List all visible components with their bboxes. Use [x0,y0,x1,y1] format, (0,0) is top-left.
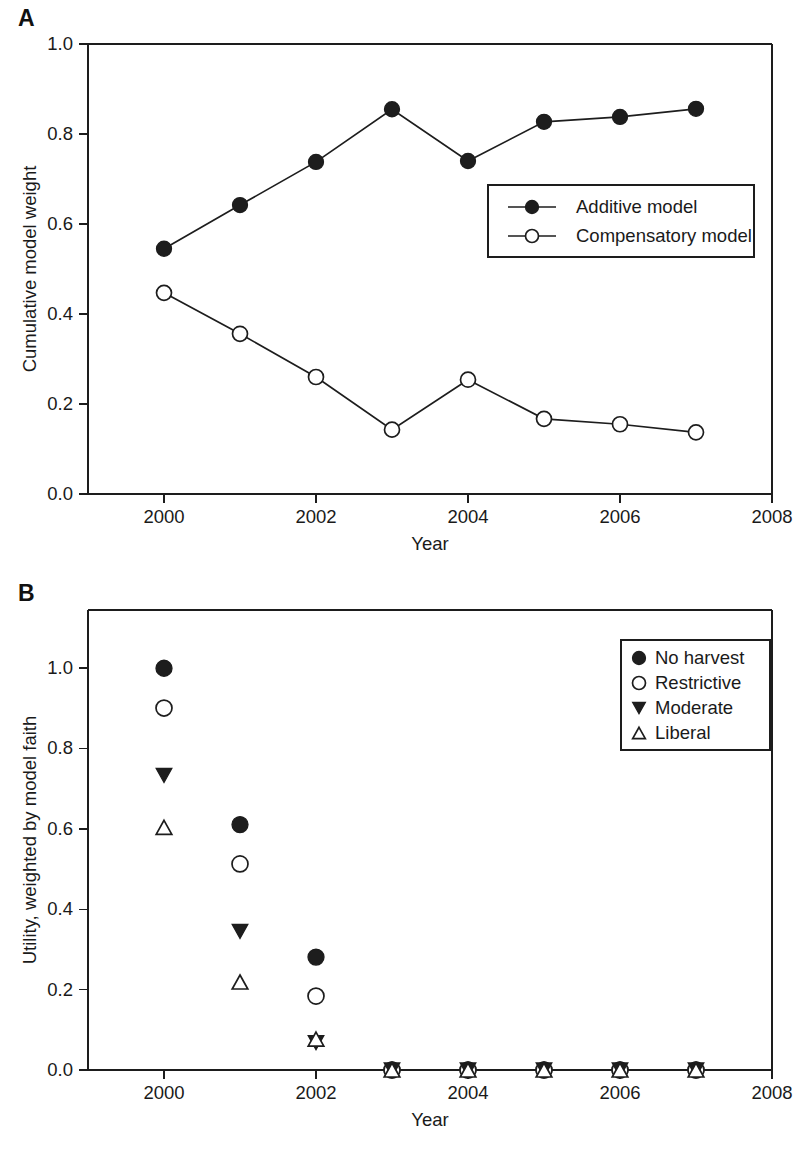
legend-label: No harvest [655,647,744,668]
marker-open-circle [537,411,552,426]
legend: Additive modelCompensatory model [488,185,754,257]
marker-filled-circle [461,154,476,169]
marker-filled-circle [385,102,400,117]
x-tick-label: 2002 [295,506,336,527]
y-axis-ticks: 0.00.20.40.60.81.0 [47,33,88,504]
x-axis-ticks: 20002002200420062008 [143,494,792,527]
y-tick-label: 0.2 [47,979,73,1000]
marker-open-circle [308,988,324,1004]
marker-filled-circle [156,660,172,676]
legend-label: Restrictive [655,672,741,693]
panel-b: B 0.00.20.40.60.81.020002002200420062008… [0,570,800,1149]
legend-label: Moderate [655,697,733,718]
legend-label: Additive model [576,196,697,217]
marker-filled-circle-legend [633,652,646,665]
series-moderate [156,769,704,1077]
marker-filled-circle [689,101,704,116]
marker-open-triangle-up [232,975,248,989]
x-tick-label: 2004 [447,506,488,527]
y-tick-label: 0.6 [47,818,73,839]
y-tick-label: 0.6 [47,213,73,234]
marker-filled-triangle-down [232,924,248,938]
y-tick-label: 0.8 [47,123,73,144]
marker-open-triangle-up [156,820,172,834]
panel-b-letter: B [18,580,35,607]
series-restrictive [156,700,704,1078]
figure-container: A 0.00.20.40.60.81.020002002200420062008… [0,0,800,1149]
marker-open-circle-legend [526,230,539,243]
y-tick-label: 0.2 [47,393,73,414]
panel-a-letter: A [18,5,35,32]
marker-open-circle [232,856,248,872]
y-tick-label: 1.0 [47,33,73,54]
marker-filled-circle-legend [526,201,539,214]
x-tick-label: 2006 [599,506,640,527]
panel-a-plot: 0.00.20.40.60.81.020002002200420062008Ye… [0,0,800,575]
y-tick-label: 0.8 [47,737,73,758]
marker-open-circle [233,326,248,341]
y-tick-label: 0.0 [47,483,73,504]
marker-open-circle [309,370,324,385]
x-tick-label: 2000 [143,1082,184,1103]
marker-open-circle [461,372,476,387]
x-axis-title: Year [411,533,448,554]
marker-filled-circle [157,241,172,256]
y-tick-label: 1.0 [47,657,73,678]
legend-label: Compensatory model [576,225,752,246]
y-axis-title: Cumulative model weight [19,166,40,373]
x-tick-label: 2000 [143,506,184,527]
x-tick-label: 2008 [751,1082,792,1103]
series-line [164,293,696,433]
marker-open-circle [385,422,400,437]
legend-label: Liberal [655,722,711,743]
marker-filled-circle [309,154,324,169]
y-axis-ticks: 0.00.20.40.60.81.0 [47,657,88,1080]
marker-open-circle [613,417,628,432]
x-axis-title: Year [411,1109,448,1130]
marker-open-circle-legend [633,677,646,690]
panel-b-plot: 0.00.20.40.60.81.020002002200420062008Ye… [0,570,800,1149]
marker-filled-circle [232,817,248,833]
y-tick-label: 0.4 [47,303,73,324]
panel-a: A 0.00.20.40.60.81.020002002200420062008… [0,0,800,575]
marker-filled-circle [613,109,628,124]
marker-filled-circle [537,114,552,129]
marker-open-circle [689,425,704,440]
x-tick-label: 2002 [295,1082,336,1103]
y-tick-label: 0.4 [47,898,73,919]
x-tick-label: 2004 [447,1082,488,1103]
marker-filled-circle [308,949,324,965]
marker-filled-circle [233,198,248,213]
marker-open-circle [156,700,172,716]
marker-filled-triangle-down [156,769,172,783]
y-tick-label: 0.0 [47,1059,73,1080]
y-axis-title: Utility, weighted by model faith [19,716,40,965]
x-tick-label: 2008 [751,506,792,527]
x-tick-label: 2006 [599,1082,640,1103]
data-series-group [157,101,704,440]
series-compensatory-model [157,285,704,440]
marker-open-circle [157,285,172,300]
legend: No harvestRestrictiveModerateLiberal [621,640,770,750]
